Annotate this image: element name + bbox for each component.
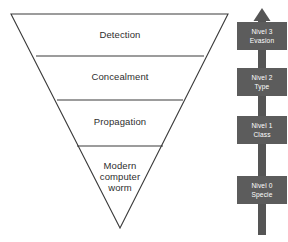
level-box-name: Type [255,82,270,91]
level-box-name: Evasion [250,36,275,45]
level-box-name: Specie [251,190,272,199]
funnel-stage-label-modern-computer-worm: Modern computer worm [72,160,168,193]
funnel-stage-label-propagation: Propagation [58,116,182,128]
level-box-level: Nivel 3 [251,27,272,36]
worm-taxonomy-diagram: Detection Concealment Propagation Modern… [0,0,288,242]
level-box-nivel-1: Nivel 1 Class [237,116,287,144]
level-box-nivel-0: Nivel 0 Specie [237,176,287,204]
level-box-level: Nivel 0 [251,181,272,190]
level-box-nivel-2: Nivel 2 Type [237,68,287,96]
axis-arrowhead [254,8,271,21]
funnel-stage-label-concealment: Concealment [48,71,192,83]
level-axis: Nivel 3 Evasion Nivel 2 Type Nivel 1 Cla… [236,0,288,242]
level-box-level: Nivel 1 [251,121,272,130]
funnel-stage-label-detection: Detection [40,29,200,41]
level-box-nivel-3: Nivel 3 Evasion [237,22,287,50]
level-box-name: Class [253,130,270,139]
level-box-level: Nivel 2 [251,73,272,82]
